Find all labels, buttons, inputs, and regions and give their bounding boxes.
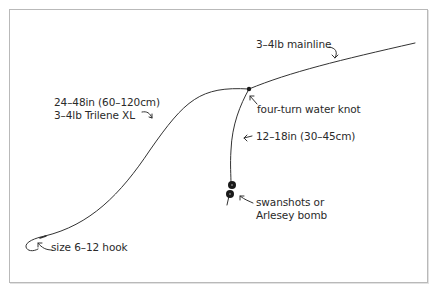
- link-length-label: 12–18in (30–45cm): [256, 130, 355, 143]
- water-knot-icon: [247, 87, 251, 91]
- hook-label: size 6–12 hook: [51, 241, 128, 254]
- knot-label: four-turn water knot: [257, 103, 361, 116]
- hooklength-line-label: 3–4lb Trilene XL: [54, 109, 135, 122]
- mainline-label: 3–4lb mainline: [256, 38, 331, 51]
- link-line: [231, 89, 249, 184]
- weight-label-line2: Arlesey bomb: [256, 209, 327, 222]
- hooklength-size-label: 24–48in (60–120cm): [54, 96, 160, 109]
- weight-label-line1: swanshots or: [256, 196, 324, 209]
- hook-arrow-icon: [38, 243, 52, 250]
- knot-arrow-icon: [250, 96, 257, 104]
- weight-arrow-icon: [240, 196, 253, 203]
- swanshots-icon: [226, 181, 236, 198]
